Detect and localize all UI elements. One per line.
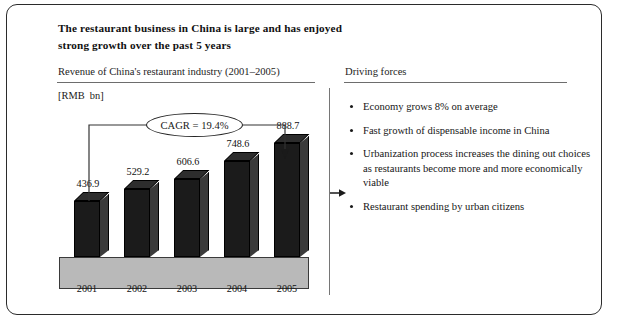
list-item-label: Restaurant spending by urban citizens (363, 201, 524, 212)
left-panel-divider-rule (57, 82, 315, 83)
list-item: Urbanization process increases the dinin… (348, 147, 600, 191)
page-title: The restaurant business in China is larg… (58, 20, 358, 53)
chart-unit-label: [RMB bn] (58, 90, 104, 101)
axis-tick-2005: 2005 (267, 283, 307, 294)
left-panel-title: Revenue of China's restaurant industry (… (58, 66, 280, 77)
slide-frame: The restaurant business in China is larg… (6, 4, 602, 315)
list-item-label: Urbanization process increases the dinin… (363, 148, 590, 188)
list-item-label: Economy grows 8% on average (363, 101, 498, 112)
list-item: Fast growth of dispensable income in Chi… (348, 124, 600, 139)
right-panel-divider-rule (344, 82, 567, 83)
bar-front-face (74, 201, 100, 257)
list-item: Restaurant spending by urban citizens (348, 200, 600, 215)
right-panel-title: Driving forces (345, 66, 406, 77)
axis-tick-2003: 2003 (167, 283, 207, 294)
list-item-label: Fast growth of dispensable income in Chi… (363, 125, 550, 136)
driving-forces-list: Economy grows 8% on averageFast growth o… (348, 100, 600, 224)
axis-tick-2001: 2001 (67, 283, 107, 294)
axis-tick-2004: 2004 (217, 283, 257, 294)
list-item: Economy grows 8% on average (348, 100, 600, 115)
bullet-dot-icon (350, 205, 353, 208)
cagr-callout-label: CAGR = 19.4% (160, 120, 228, 131)
axis-tick-2002: 2002 (117, 283, 157, 294)
cagr-callout: CAGR = 19.4% (146, 113, 243, 137)
cagr-leader-line (87, 123, 382, 203)
bullet-dot-icon (350, 105, 353, 108)
